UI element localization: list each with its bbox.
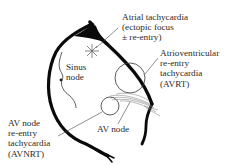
label-avrt-line4: (AVRT) — [160, 79, 219, 89]
label-avnrt-line4: (AVNRT) — [8, 149, 50, 159]
leader-av-node — [118, 102, 130, 124]
label-avrt-line3: tachycardia — [160, 68, 219, 78]
label-atrial-tachycardia: Atrial tachycardia (ectopic focus ± re-e… — [122, 12, 188, 43]
label-sinus-node-line1: Sinus — [66, 62, 86, 72]
leader-avrt — [145, 58, 158, 74]
label-sinus-node: Sinus node — [66, 62, 86, 82]
label-avnrt-line1: AV node — [8, 118, 50, 128]
label-avrt-line1: Atrioventricular — [160, 48, 219, 58]
atrial-wall-outline — [49, 22, 108, 156]
septum-outline — [100, 38, 152, 104]
sinus-node-marker — [60, 79, 63, 82]
label-avnrt: AV node re-entry tachycardia (AVNRT) — [8, 118, 50, 159]
label-avrt: Atrioventricular re-entry tachycardia (A… — [160, 48, 219, 89]
label-avnrt-line3: tachycardia — [8, 138, 50, 148]
label-avnrt-line2: re-entry — [8, 128, 50, 138]
label-av-node: AV node — [97, 124, 129, 134]
label-avrt-line2: re-entry — [160, 58, 219, 68]
label-atrial-tachycardia-line2: (ectopic focus — [122, 22, 188, 32]
label-atrial-tachycardia-line3: ± re-entry) — [122, 32, 188, 42]
asterisk-burst-icon — [85, 44, 99, 58]
label-atrial-tachycardia-line1: Atrial tachycardia — [122, 12, 188, 22]
label-sinus-node-line2: node — [66, 72, 86, 82]
ventricle-wall-outline — [142, 104, 152, 144]
apex-tail — [106, 154, 114, 162]
label-av-node-text: AV node — [97, 124, 129, 134]
leader-avnrt — [58, 112, 102, 136]
